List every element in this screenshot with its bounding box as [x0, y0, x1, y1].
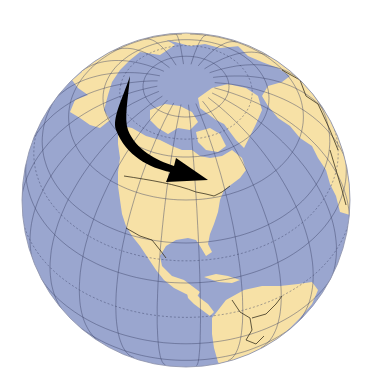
- globe-figure: Globe view centered on North America wit…: [0, 0, 374, 390]
- globe-svg: [0, 0, 374, 390]
